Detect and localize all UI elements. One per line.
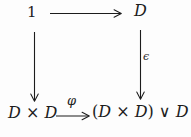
phi-arrow-label: φ <box>67 94 76 107</box>
node-d: D <box>134 3 147 19</box>
epsilon-arrow-label: ϵ <box>143 51 149 62</box>
node-d-times-d: D × D <box>8 105 57 121</box>
commutative-diagram: 1 D ϵ D × D φ (D × D) ∨ D <box>0 0 191 137</box>
node-d-times-d-vee-d: (D × D) ∨ D <box>92 104 188 120</box>
node-one: 1 <box>27 5 37 20</box>
